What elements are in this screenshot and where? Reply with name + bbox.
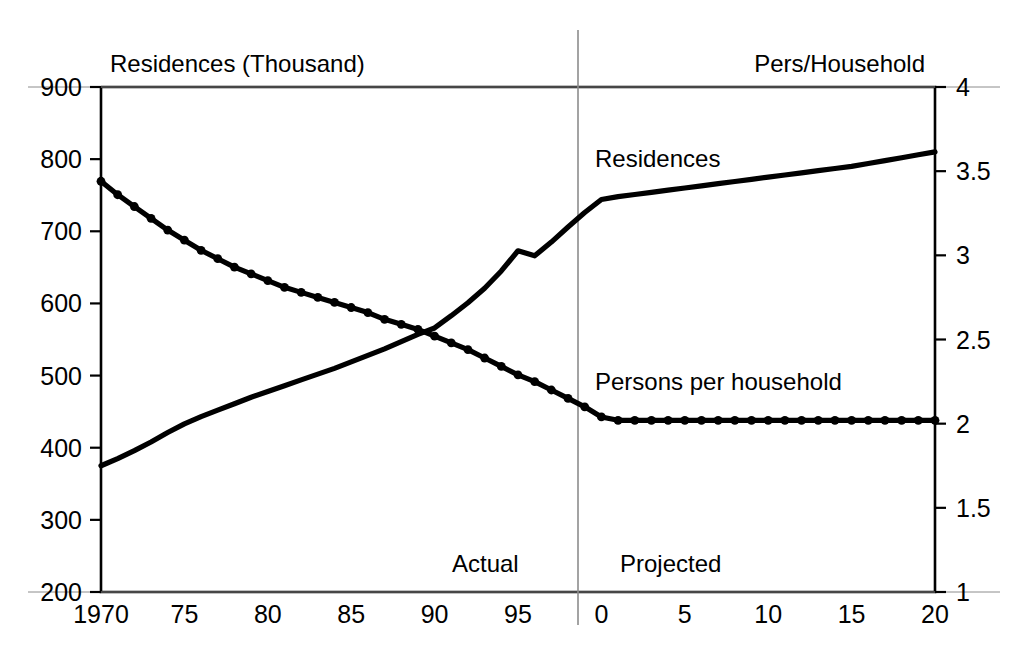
x-tick-label: 85 [337,600,365,628]
right-tick-label: 3.5 [956,157,991,185]
data-point-marker [580,402,589,411]
data-point-marker [113,190,122,199]
left-tick-label: 400 [40,434,82,462]
left-axis-tick-labels: 900800700600500400300200 [40,73,82,606]
data-point-marker [831,416,840,425]
x-tick-label: 80 [254,600,282,628]
x-tick-label: 90 [421,600,449,628]
data-point-marker [530,377,539,386]
data-point-marker [780,416,789,425]
x-tick-label: 15 [838,600,866,628]
data-point-marker [497,362,506,371]
data-point-marker [797,416,806,425]
left-axis-title: Residences (Thousand) [110,50,365,77]
data-point-marker [881,416,890,425]
period-label-projected: Projected [620,550,721,577]
right-tick-label: 4 [956,73,970,101]
left-tick-label: 700 [40,217,82,245]
data-point-marker [847,416,856,425]
x-tick-label: 10 [754,600,782,628]
left-tick-label: 500 [40,362,82,390]
left-tick-label: 600 [40,289,82,317]
data-point-marker [297,288,306,297]
data-point-marker [430,332,439,341]
line-chart: 900800700600500400300200 43.532.521.51 1… [0,0,1025,664]
data-point-marker [330,298,339,307]
data-point-marker [263,276,272,285]
series-label-persons-per-household: Persons per household [595,368,842,395]
data-point-marker [664,416,673,425]
data-point-marker [597,413,606,422]
data-point-marker [163,226,172,235]
data-point-marker [514,370,523,379]
data-point-marker [180,236,189,245]
left-axis-ticks [90,87,101,592]
data-point-marker [447,338,456,347]
data-point-marker [197,246,206,255]
data-point-marker [230,263,239,272]
plot-area-background [101,87,935,592]
right-tick-label: 3 [956,241,970,269]
right-tick-label: 2 [956,410,970,438]
right-tick-label: 1.5 [956,494,991,522]
x-tick-label: 5 [678,600,692,628]
data-point-marker [730,416,739,425]
data-point-marker [814,416,823,425]
data-point-marker [614,416,623,425]
x-axis-tick-labels: 1970758085909505101520 [73,600,949,628]
x-tick-label: 20 [921,600,949,628]
left-tick-label: 300 [40,506,82,534]
data-point-marker [280,283,289,292]
right-axis-title: Pers/Household [754,50,925,77]
x-tick-label: 1970 [73,600,129,628]
data-point-marker [764,416,773,425]
data-point-marker [347,303,356,312]
data-point-marker [897,416,906,425]
data-point-marker [680,416,689,425]
data-point-marker [914,416,923,425]
data-point-marker [363,308,372,317]
right-tick-label: 1 [956,578,970,606]
data-point-marker [313,293,322,302]
x-tick-label: 0 [594,600,608,628]
data-point-marker [480,354,489,363]
right-axis-ticks [935,87,946,592]
data-point-marker [130,202,139,211]
data-point-marker [747,416,756,425]
data-point-marker [380,315,389,324]
data-point-marker [630,416,639,425]
left-tick-label: 800 [40,145,82,173]
data-point-marker [931,416,940,425]
data-point-marker [697,416,706,425]
data-point-marker [647,416,656,425]
x-tick-label: 75 [170,600,198,628]
data-point-marker [414,325,423,334]
data-point-marker [97,177,106,186]
series-label-residences: Residences [595,145,720,172]
data-point-marker [213,254,222,263]
data-point-marker [547,386,556,395]
right-axis-tick-labels: 43.532.521.51 [956,73,991,606]
x-tick-label: 95 [504,600,532,628]
left-tick-label: 900 [40,73,82,101]
data-point-marker [397,320,406,329]
data-point-marker [464,345,473,354]
data-point-marker [147,214,156,223]
data-point-marker [247,269,256,278]
period-label-actual: Actual [452,550,519,577]
chart-figure: 900800700600500400300200 43.532.521.51 1… [0,0,1025,664]
data-point-marker [864,416,873,425]
data-point-marker [714,416,723,425]
data-point-marker [564,394,573,403]
right-tick-label: 2.5 [956,326,991,354]
